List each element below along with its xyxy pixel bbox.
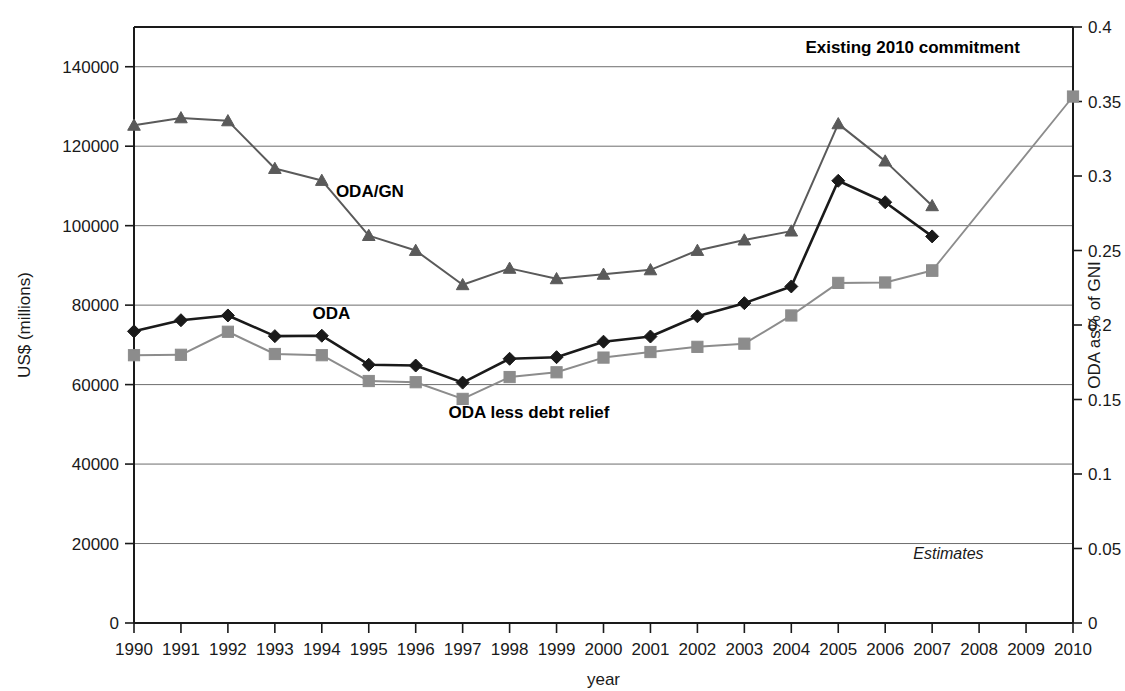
marker-square-oda-less-debt-relief-16 (880, 277, 891, 288)
left-tick-label-40000: 40000 (72, 455, 119, 474)
marker-square-oda-less-debt-relief-12 (692, 341, 703, 352)
x-tick-label-2009: 2009 (1007, 640, 1045, 659)
x-tick-label-1994: 1994 (303, 640, 341, 659)
marker-square-oda-less-debt-relief-17 (927, 265, 938, 276)
marker-square-oda-less-debt-relief-10 (598, 352, 609, 363)
left-tick-label-60000: 60000 (72, 376, 119, 395)
x-tick-label-1996: 1996 (397, 640, 435, 659)
y-axis-title: US$ (millions) (15, 272, 34, 378)
right-tick-label-0.15: 0.15 (1088, 391, 1121, 410)
left-tick-label-140000: 140000 (62, 58, 119, 77)
right-tick-label-0.35: 0.35 (1088, 93, 1121, 112)
marker-square-oda-less-debt-relief-9 (551, 367, 562, 378)
x-tick-label-1990: 1990 (115, 640, 153, 659)
existing-commitment-label: Existing 2010 commitment (805, 38, 1020, 57)
marker-square-oda-less-debt-relief-14 (786, 310, 797, 321)
marker-square-oda-less-debt-relief-0 (128, 350, 139, 361)
marker-square-oda-less-debt-relief-2 (222, 326, 233, 337)
x-tick-label-1998: 1998 (491, 640, 529, 659)
right-tick-label-0.05: 0.05 (1088, 540, 1121, 559)
x-tick-label-2007: 2007 (913, 640, 951, 659)
marker-square-oda-less-debt-relief-1 (175, 349, 186, 360)
chart-container: 020000400006000080000100000120000140000 … (0, 0, 1125, 691)
right-tick-label-0.1: 0.1 (1088, 465, 1112, 484)
marker-square-oda-less-debt-relief-11 (645, 346, 656, 357)
x-tick-label-2001: 2001 (632, 640, 670, 659)
marker-square-oda-less-debt-relief-6 (410, 377, 421, 388)
x-tick-label-1993: 1993 (256, 640, 294, 659)
x-tick-label-1991: 1991 (162, 640, 200, 659)
x-tick-label-1997: 1997 (444, 640, 482, 659)
left-tick-label-120000: 120000 (62, 137, 119, 156)
right-tick-label-0.25: 0.25 (1088, 242, 1121, 261)
estimates-label: Estimates (913, 545, 983, 562)
x-axis-title: year (587, 670, 620, 689)
oda-label: ODA (312, 304, 350, 323)
marker-square-oda-less-debt-relief-4 (316, 350, 327, 361)
left-tick-label-0: 0 (110, 614, 119, 633)
oda-gni-label: ODA/GN (336, 182, 404, 201)
right-tick-label-0.3: 0.3 (1088, 167, 1112, 186)
left-tick-label-80000: 80000 (72, 296, 119, 315)
marker-square-oda-less-debt-relief-13 (739, 338, 750, 349)
left-tick-label-100000: 100000 (62, 217, 119, 236)
oda-less-debt-relief-label: ODA less debt relief (449, 403, 610, 422)
marker-square-oda-less-debt-relief-5 (363, 375, 374, 386)
x-tick-label-1992: 1992 (209, 640, 247, 659)
marker-square-oda-less-debt-relief-8 (504, 371, 515, 382)
right-tick-label-0: 0 (1088, 614, 1097, 633)
chart-background (0, 0, 1125, 691)
marker-square-oda-less-debt-relief-15 (833, 277, 844, 288)
x-tick-label-2006: 2006 (866, 640, 904, 659)
marker-square-oda-less-debt-relief-3 (269, 348, 280, 359)
x-tick-label-2008: 2008 (960, 640, 998, 659)
oda-trends-line-chart: 020000400006000080000100000120000140000 … (0, 0, 1125, 691)
x-tick-label-1999: 1999 (538, 640, 576, 659)
right-tick-label-0.4: 0.4 (1088, 18, 1112, 37)
x-tick-label-2010: 2010 (1054, 640, 1092, 659)
x-tick-label-2003: 2003 (725, 640, 763, 659)
x-tick-label-2000: 2000 (585, 640, 623, 659)
x-tick-label-2002: 2002 (678, 640, 716, 659)
x-tick-label-2005: 2005 (819, 640, 857, 659)
x-tick-label-1995: 1995 (350, 640, 388, 659)
left-tick-label-20000: 20000 (72, 535, 119, 554)
x-tick-label-2004: 2004 (772, 640, 810, 659)
y2-axis-title: ODA as% of GNI (1085, 261, 1104, 389)
marker-square-existing-2010-commitment-1 (1067, 91, 1078, 102)
